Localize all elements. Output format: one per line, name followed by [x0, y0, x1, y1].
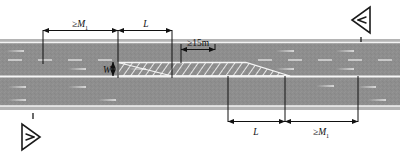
diagram-canvas: ≥M1 L ≥15m W L ≥M1 — [0, 0, 400, 156]
dimension-label-15m: ≥15m — [187, 38, 210, 48]
dimension-label-top-l: L — [142, 19, 148, 29]
road-work-zone-diagram: ≥M1 L ≥15m W L ≥M1 — [0, 0, 400, 156]
dimension-label-w: W — [103, 65, 112, 75]
dimension-label-bottom-l: L — [252, 127, 258, 137]
